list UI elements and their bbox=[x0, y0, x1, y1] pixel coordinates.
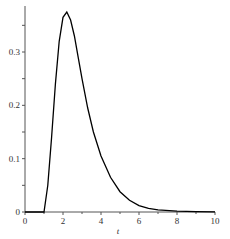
x-tick-label: 8 bbox=[175, 216, 180, 226]
chart: 024681000.10.20.3t bbox=[0, 0, 230, 239]
x-tick-label: 2 bbox=[61, 216, 66, 226]
x-tick-label: 6 bbox=[137, 216, 142, 226]
axis-labels: 024681000.10.20.3t bbox=[9, 47, 220, 236]
y-tick-label: 0 bbox=[16, 207, 21, 217]
y-tick-label: 0.1 bbox=[9, 154, 20, 164]
x-tick-label: 10 bbox=[211, 216, 221, 226]
axes bbox=[22, 6, 215, 215]
data-line bbox=[25, 12, 215, 212]
x-tick-label: 0 bbox=[23, 216, 28, 226]
x-axis-label: t bbox=[117, 226, 120, 236]
x-tick-label: 4 bbox=[99, 216, 104, 226]
y-tick-label: 0.2 bbox=[9, 100, 20, 110]
y-tick-label: 0.3 bbox=[9, 47, 21, 57]
